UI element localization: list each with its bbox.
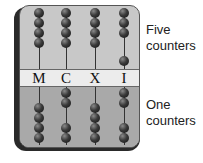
bead-icon <box>90 103 100 113</box>
label-five-counters: Five counters <box>146 22 196 54</box>
bead-icon <box>34 38 44 48</box>
bead-icon <box>119 98 129 108</box>
bead-icon <box>119 18 129 28</box>
column-letter-m: M <box>29 70 49 87</box>
bead-icon <box>34 133 44 143</box>
bead-icon <box>61 18 71 28</box>
column-letter-x: X <box>85 70 105 87</box>
bead-icon <box>119 123 129 133</box>
bead-icon <box>61 123 71 133</box>
label-one-line1: One <box>146 97 196 113</box>
column-letter-c: C <box>56 70 76 87</box>
bead-icon <box>34 123 44 133</box>
abacus-board: MCXI <box>19 5 140 148</box>
bead-icon <box>34 18 44 28</box>
bead-icon <box>61 38 71 48</box>
bead-icon <box>34 103 44 113</box>
bead-icon <box>61 8 71 18</box>
bead-icon <box>34 8 44 18</box>
bead-icon <box>119 28 129 38</box>
bead-icon <box>119 133 129 143</box>
bead-icon <box>90 18 100 28</box>
label-five-line1: Five <box>146 22 196 38</box>
label-one-line2: counters <box>146 113 196 129</box>
bead-icon <box>34 28 44 38</box>
label-one-counters: One counters <box>146 97 196 129</box>
bead-icon <box>119 88 129 98</box>
bead-icon <box>119 8 129 18</box>
bead-icon <box>90 38 100 48</box>
bead-icon <box>61 98 71 108</box>
bead-icon <box>90 133 100 143</box>
label-five-line2: counters <box>146 38 196 54</box>
bead-icon <box>90 8 100 18</box>
bead-icon <box>61 28 71 38</box>
bead-icon <box>90 28 100 38</box>
bead-icon <box>34 113 44 123</box>
letter-band: MCXI <box>20 69 139 87</box>
bead-icon <box>119 56 129 66</box>
bead-icon <box>61 133 71 143</box>
bead-icon <box>90 123 100 133</box>
column-letter-i: I <box>114 70 134 87</box>
bead-icon <box>90 113 100 123</box>
bead-icon <box>61 88 71 98</box>
